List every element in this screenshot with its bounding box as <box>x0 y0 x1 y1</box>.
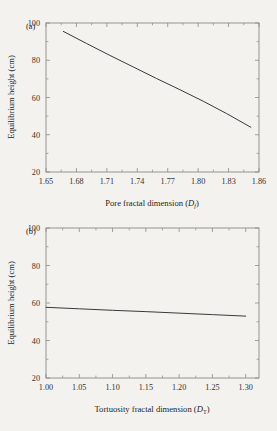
y-tick-label: 100 <box>28 224 40 233</box>
panel-b-x-axis-title: Tortuosity fractal dimension (DT) <box>94 404 209 415</box>
x-tick-label: 1.71 <box>100 177 114 186</box>
y-tick-label: 100 <box>28 19 40 28</box>
panel-a-y-axis-title: Equilibrium height (cm) <box>6 55 16 139</box>
y-tick-label: 40 <box>32 337 40 346</box>
x-tick-label: 1.86 <box>252 177 266 186</box>
panel-b-x-axis-ticks <box>46 228 246 378</box>
y-tick-label: 20 <box>32 374 40 383</box>
y-tick-label: 80 <box>32 262 40 271</box>
panel-a-svg: (a) 1.651.681.711.741.771.801.831.86 204… <box>0 0 277 215</box>
panel-b-y-axis-ticks <box>46 228 259 378</box>
x-tick-label: 1.65 <box>39 177 53 186</box>
x-tick-label: 1.30 <box>239 383 253 392</box>
panel-b-plot-frame <box>46 228 259 378</box>
panel-b-data-line <box>46 307 246 316</box>
x-tick-label: 1.83 <box>221 177 235 186</box>
y-tick-label: 20 <box>32 168 40 177</box>
y-tick-label: 40 <box>32 131 40 140</box>
panel-b-y-tick-labels: 20406080100 <box>28 224 40 383</box>
x-tick-label: 1.05 <box>72 383 86 392</box>
y-tick-label: 80 <box>32 56 40 65</box>
panel-a-x-tick-labels: 1.651.681.711.741.771.801.831.86 <box>39 177 266 186</box>
x-tick-label: 1.77 <box>161 177 175 186</box>
x-tick-label: 1.15 <box>139 383 153 392</box>
x-tick-label: 1.20 <box>172 383 186 392</box>
x-tick-label: 1.00 <box>39 383 53 392</box>
panel-a-x-axis-ticks <box>46 23 259 172</box>
x-tick-label: 1.80 <box>191 177 205 186</box>
chart-panel-b: (b) 1.001.051.101.151.201.251.30 2040608… <box>0 205 277 431</box>
panel-b-y-axis-title: Equilibrium height (cm) <box>6 261 16 345</box>
x-tick-label: 1.74 <box>130 177 144 186</box>
panel-b-svg: (b) 1.001.051.101.151.201.251.30 2040608… <box>0 205 277 431</box>
x-tick-label: 1.68 <box>69 177 83 186</box>
panel-a-y-axis-ticks <box>46 23 259 172</box>
panel-a-plot-frame <box>46 23 259 172</box>
chart-panel-a: (a) 1.651.681.711.741.771.801.831.86 204… <box>0 0 277 215</box>
panel-a-y-tick-labels: 20406080100 <box>28 19 40 177</box>
y-tick-label: 60 <box>32 299 40 308</box>
x-tick-label: 1.25 <box>205 383 219 392</box>
x-tick-label: 1.10 <box>105 383 119 392</box>
panel-a-data-line <box>63 31 251 127</box>
figure-container: (a) 1.651.681.711.741.771.801.831.86 204… <box>0 0 277 431</box>
panel-b-x-tick-labels: 1.001.051.101.151.201.251.30 <box>39 383 253 392</box>
y-tick-label: 60 <box>32 94 40 103</box>
